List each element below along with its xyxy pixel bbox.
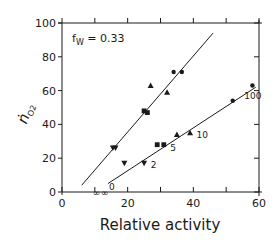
point-labels: 02510100∞∞ [93,91,262,198]
x-tick-label: 60 [252,197,266,210]
fit-lines [82,33,256,185]
marker-circle [231,99,235,103]
point-label: 0 [109,182,115,192]
marker-triangle-up [148,83,154,89]
fit-line-upper [82,33,213,185]
x-tick-label: 40 [186,197,200,210]
plot-frame [58,20,262,196]
parameter-annotation: fW = 0.33 [72,32,125,47]
point-label: 5 [170,143,176,153]
y-tick-label: 20 [42,152,56,165]
marker-circle [250,83,254,87]
data-points [110,70,255,166]
y-tick-label: 80 [42,51,56,64]
chart: 0204060020406080100 02510100∞∞ fW = 0.33… [0,0,279,242]
y-tick-label: 100 [35,17,56,30]
point-label: 100 [244,91,261,101]
point-label: 10 [197,130,209,140]
marker-circle [171,70,175,74]
marker-circle [180,70,184,74]
marker-triangle-up [164,89,170,95]
x-axis-title: Relative activity [100,216,221,234]
y-tick-label: 0 [49,186,56,199]
y-axis-title: ṅO2 [13,100,38,126]
marker-square [145,110,150,115]
x-tick-label: 20 [121,197,135,210]
tick-labels: 0204060020406080100 [35,17,266,210]
marker-square [155,142,160,147]
marker-square [161,142,166,147]
marker-triangle-down [121,161,127,167]
infinity-symbol: ∞ [101,188,109,198]
y-tick-label: 40 [42,118,56,131]
point-label: 2 [151,160,157,170]
marker-triangle-up [174,132,180,138]
marker-triangle-up [187,130,193,136]
y-tick-label: 60 [42,85,56,98]
marker-triangle-down [141,161,147,167]
x-tick-label: 0 [59,197,66,210]
infinity-symbol: ∞ [93,188,101,198]
